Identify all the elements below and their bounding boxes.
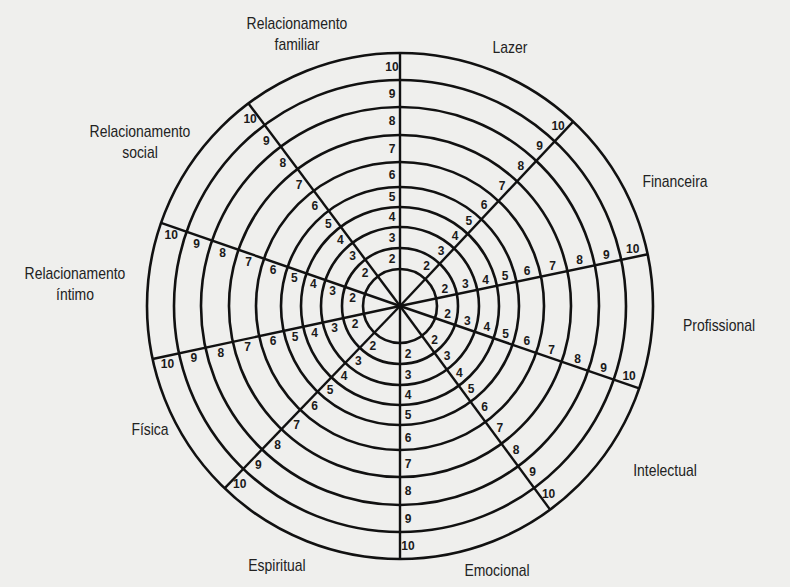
- scale-number: 2: [362, 266, 369, 280]
- scale-number: 7: [549, 259, 556, 273]
- label-line: íntimo: [14, 284, 137, 305]
- scale-number: 7: [405, 457, 412, 471]
- scale-number: 2: [349, 291, 356, 305]
- scale-number: 3: [389, 231, 396, 245]
- scale-number: 2: [352, 317, 359, 331]
- scale-number: 9: [389, 87, 396, 101]
- scale-number: 4: [341, 369, 348, 383]
- scale-number: 3: [329, 284, 336, 298]
- label-line: Relacionamento: [14, 263, 137, 284]
- scale-number: 8: [513, 443, 520, 457]
- scale-number: 4: [456, 366, 463, 380]
- scale-number: 3: [349, 249, 356, 263]
- area-label-relacionamento-familiar: Relacionamento familiar: [227, 13, 366, 55]
- scale-number: 10: [551, 119, 565, 133]
- scale-number: 5: [502, 327, 509, 341]
- scale-number: 3: [405, 368, 412, 382]
- scale-number: 7: [499, 179, 506, 193]
- scale-number: 6: [524, 334, 531, 348]
- scale-number: 10: [161, 357, 175, 371]
- area-label-relacionamento-intimo: Relacionamento íntimo: [14, 263, 137, 305]
- label-line: Intelectual: [616, 460, 714, 481]
- scale-number: 2: [389, 252, 396, 266]
- scale-number: 10: [165, 228, 179, 242]
- label-line: Relacionamento: [79, 121, 202, 142]
- scale-number: 7: [245, 255, 252, 269]
- label-line: social: [79, 142, 202, 163]
- scale-number: 4: [337, 233, 344, 247]
- area-label-financeira: Financeira: [630, 171, 720, 192]
- scale-number: 7: [548, 343, 555, 357]
- scale-number: 4: [452, 229, 459, 243]
- scale-number: 9: [255, 458, 262, 472]
- scale-number: 3: [438, 244, 445, 258]
- scale-number: 2: [444, 307, 451, 321]
- scale-number: 6: [524, 264, 531, 278]
- scale-number: 7: [296, 178, 303, 192]
- scale-number: 4: [482, 273, 489, 287]
- area-label-relacionamento-social: Relacionamento social: [79, 121, 202, 163]
- area-label-lazer: Lazer: [477, 37, 543, 58]
- scale-number: 6: [389, 168, 396, 182]
- scale-number: 6: [481, 400, 488, 414]
- scale-number: 3: [464, 314, 471, 328]
- scale-number: 10: [385, 60, 399, 74]
- scale-number: 4: [310, 277, 317, 291]
- area-label-emocional: Emocional: [452, 560, 542, 581]
- scale-number: 10: [626, 242, 640, 256]
- scale-number: 4: [405, 388, 412, 402]
- label-line: Lazer: [477, 37, 543, 58]
- scale-number: 4: [483, 320, 490, 334]
- area-label-intelectual: Intelectual: [616, 460, 714, 481]
- scale-number: 2: [369, 339, 376, 353]
- scale-number: 4: [311, 326, 318, 340]
- scale-number: 7: [389, 142, 396, 156]
- scale-number: 6: [311, 399, 318, 413]
- scale-number: 6: [405, 431, 412, 445]
- label-line: familiar: [227, 34, 366, 55]
- scale-number: 5: [327, 383, 334, 397]
- scale-number: 2: [442, 282, 449, 296]
- scale-number: 9: [529, 465, 536, 479]
- scale-number: 5: [502, 269, 509, 283]
- scale-number: 7: [497, 421, 504, 435]
- scale-number: 2: [423, 259, 430, 273]
- label-line: Espiritual: [232, 555, 322, 576]
- scale-number: 5: [291, 271, 298, 285]
- scale-number: 10: [243, 112, 257, 126]
- scale-number: 8: [279, 156, 286, 170]
- area-label-profissional: Profissional: [666, 315, 773, 336]
- scale-number: 5: [325, 217, 332, 231]
- scale-number: 6: [270, 263, 277, 277]
- scale-number: 8: [517, 159, 524, 173]
- scale-number: 10: [401, 539, 415, 553]
- scale-number: 7: [293, 418, 300, 432]
- scale-number: 5: [389, 190, 396, 204]
- scale-number: 5: [292, 330, 299, 344]
- scale-number: 3: [444, 349, 451, 363]
- scale-number: 8: [574, 352, 581, 366]
- scale-number: 3: [331, 321, 338, 335]
- scale-number: 3: [355, 354, 362, 368]
- label-line: Física: [117, 419, 183, 440]
- scale-number: 8: [217, 346, 224, 360]
- scale-number: 3: [462, 277, 469, 291]
- scale-number: 5: [405, 408, 412, 422]
- label-line: Financeira: [630, 171, 720, 192]
- scale-number: 8: [405, 484, 412, 498]
- scale-number: 9: [405, 512, 412, 526]
- scale-number: 4: [389, 210, 396, 224]
- scale-number: 9: [603, 248, 610, 262]
- scale-number: 9: [193, 237, 200, 251]
- scale-number: 8: [219, 246, 226, 260]
- scale-number: 9: [536, 139, 543, 153]
- scale-number: 8: [576, 253, 583, 267]
- scale-number: 6: [481, 198, 488, 212]
- scale-number: 10: [233, 477, 247, 491]
- scale-number: 6: [311, 199, 318, 213]
- scale-number: 5: [465, 214, 472, 228]
- scale-number: 5: [468, 382, 475, 396]
- label-line: Profissional: [666, 315, 773, 336]
- scale-number: 2: [431, 333, 438, 347]
- area-label-espiritual: Espiritual: [232, 555, 322, 576]
